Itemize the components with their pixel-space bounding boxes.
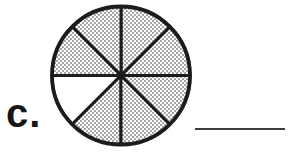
answer-blank-line[interactable] (195, 128, 285, 130)
fraction-circle-diagram (0, 0, 289, 156)
